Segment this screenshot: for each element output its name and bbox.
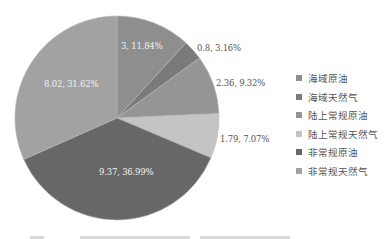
cropped-caption — [30, 236, 300, 239]
legend-label: 海域天然气 — [308, 90, 358, 104]
legend-label: 陆上常规天然气 — [308, 127, 378, 141]
data-label-onshore-gas: 1.79, 7.07% — [220, 134, 269, 144]
legend-swatch-icon — [296, 149, 302, 155]
legend-label: 非常规天然气 — [308, 164, 368, 178]
legend-label: 陆上常规原油 — [308, 108, 368, 122]
legend-swatch-icon — [296, 168, 302, 174]
data-label-offshore-oil: 3, 11.84% — [121, 41, 162, 51]
legend-label: 非常规原油 — [308, 145, 358, 159]
legend-item-offshore-gas: 海域天然气 — [296, 88, 378, 107]
data-label-onshore-oil: 2.36, 9.32% — [216, 78, 265, 88]
legend-swatch-icon — [296, 94, 302, 100]
legend-item-onshore-gas: 陆上常规天然气 — [296, 125, 378, 144]
legend-swatch-icon — [296, 112, 302, 118]
legend-swatch-icon — [296, 131, 302, 137]
legend-item-unconventional-gas: 非常规天然气 — [296, 162, 378, 181]
legend-item-unconventional-oil: 非常规原油 — [296, 143, 378, 162]
data-label-unconventional-oil: 9.37, 36.99% — [99, 167, 153, 177]
data-label-offshore-gas: 0.8, 3.16% — [197, 43, 241, 53]
data-label-unconventional-gas: 8.02, 31.62% — [44, 79, 98, 89]
legend-item-offshore-oil: 海域原油 — [296, 69, 378, 88]
legend-swatch-icon — [296, 75, 302, 81]
legend-item-onshore-oil: 陆上常规原油 — [296, 106, 378, 125]
legend: 海域原油 海域天然气 陆上常规原油 陆上常规天然气 非常规原油 非常规天然气 — [296, 69, 378, 180]
legend-label: 海域原油 — [308, 71, 348, 85]
